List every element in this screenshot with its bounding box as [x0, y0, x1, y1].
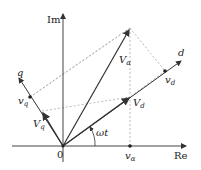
v-d-dot — [163, 69, 167, 73]
v-q-vector — [43, 113, 63, 146]
omega-t-arc — [90, 127, 95, 146]
imag-axis-label: Im — [47, 14, 61, 25]
q-axis-label: q — [17, 67, 23, 78]
v-alpha-dot — [128, 144, 132, 148]
real-axis-label: Re — [174, 150, 188, 161]
origin-label: 0 — [57, 149, 63, 160]
v-d-projection-label: vd — [165, 74, 176, 87]
phasor-diagram: Im Re 0 d q ωt Vα Vd Vq vα vd vq — [0, 0, 201, 170]
omega-t-label: ωt — [96, 127, 109, 138]
v-q-projection-label: vq — [18, 95, 29, 108]
v-d-vector-label: Vd — [133, 97, 145, 110]
d-axis-label: d — [178, 47, 184, 58]
v-q-vector-label: Vq — [33, 118, 45, 131]
v-q-dot — [28, 95, 32, 99]
v-d-vector — [63, 98, 129, 146]
v-alpha-vector-label: Vα — [119, 54, 131, 67]
origin-dot — [62, 145, 65, 148]
v-alpha-projection-label: vα — [125, 150, 136, 163]
